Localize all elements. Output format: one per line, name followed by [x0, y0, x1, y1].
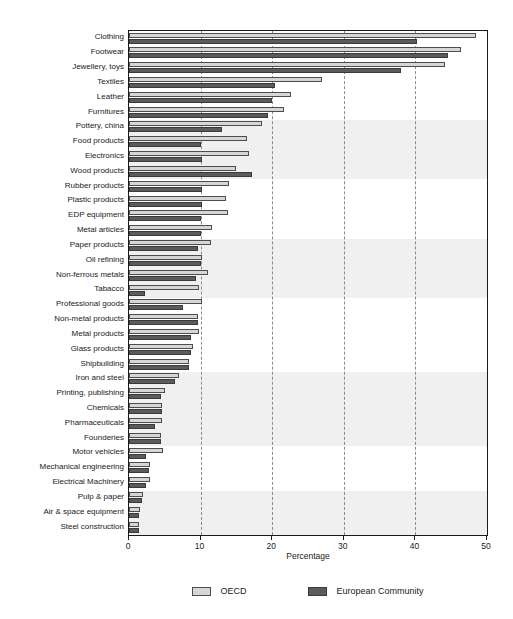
category-label: Motor vehicles [0, 447, 124, 456]
x-axis-tick [343, 536, 344, 540]
x-axis-tick [271, 536, 272, 540]
legend-item-european-community: European Community [308, 586, 423, 596]
bar-european-community [129, 350, 191, 355]
bar-european-community [129, 528, 139, 533]
category-label: Founderies [0, 433, 124, 442]
category-label: Leather [0, 92, 124, 101]
bar-row [129, 33, 487, 48]
bar-oecd [129, 196, 226, 201]
category-label: Oil refining [0, 255, 124, 264]
bar-oecd [129, 166, 236, 171]
bar-oecd [129, 92, 291, 97]
bar-european-community [129, 483, 146, 488]
x-axis-tick [414, 536, 415, 540]
bar-european-community [129, 231, 201, 236]
legend-item-oecd: OECD [192, 586, 246, 596]
bar-row [129, 388, 487, 403]
bar-european-community [129, 394, 161, 399]
category-label: Mechanical engineering [0, 462, 124, 471]
category-label: Shipbuilding [0, 359, 124, 368]
bar-oecd [129, 388, 165, 393]
bar-oecd [129, 507, 140, 512]
category-label: Chemicals [0, 403, 124, 412]
bar-european-community [129, 142, 201, 147]
bar-european-community [129, 335, 191, 340]
x-axis-tick-label: 30 [338, 541, 347, 551]
bar-row [129, 285, 487, 300]
category-label: Furnitures [0, 107, 124, 116]
category-label: Footwear [0, 47, 124, 56]
bar-row [129, 299, 487, 314]
bar-row [129, 121, 487, 136]
bar-row [129, 136, 487, 151]
category-label: Metal products [0, 329, 124, 338]
bar-european-community [129, 409, 162, 414]
bar-european-community [129, 172, 252, 177]
bar-oecd [129, 462, 150, 467]
bar-oecd [129, 181, 229, 186]
bar-oecd [129, 373, 179, 378]
category-label: EDP equipment [0, 210, 124, 219]
chart-legend: OECD European Community [128, 580, 488, 602]
bar-european-community [129, 83, 275, 88]
bar-row [129, 270, 487, 285]
bar-european-community [129, 157, 202, 162]
x-axis-tick [486, 536, 487, 540]
bar-oecd [129, 285, 199, 290]
category-label: Printing, publishing [0, 388, 124, 397]
bar-european-community [129, 216, 201, 221]
bar-oecd [129, 77, 322, 82]
bar-european-community [129, 498, 142, 503]
plot-area [128, 30, 488, 536]
bar-oecd [129, 448, 163, 453]
bar-oecd [129, 418, 162, 423]
bar-chart: ClothingFootwearJewellery, toysTextilesL… [0, 0, 513, 619]
bar-oecd [129, 492, 143, 497]
bar-european-community [129, 53, 448, 58]
bar-row [129, 448, 487, 463]
bar-oecd [129, 151, 249, 156]
bar-row [129, 492, 487, 507]
bar-oecd [129, 403, 162, 408]
bar-row [129, 77, 487, 92]
bar-european-community [129, 261, 201, 266]
bar-european-community [129, 246, 198, 251]
category-label: Iron and steel [0, 373, 124, 382]
bar-european-community [129, 276, 196, 281]
bar-row [129, 344, 487, 359]
bar-european-community [129, 98, 272, 103]
bar-european-community [129, 39, 417, 44]
bar-oecd [129, 255, 202, 260]
category-label: Textiles [0, 77, 124, 86]
bar-row [129, 522, 487, 536]
bar-oecd [129, 433, 161, 438]
bar-row [129, 418, 487, 433]
category-label: Electrical Machinery [0, 477, 124, 486]
bar-european-community [129, 379, 175, 384]
category-axis-labels: ClothingFootwearJewellery, toysTextilesL… [0, 30, 124, 536]
bar-oecd [129, 477, 150, 482]
bar-oecd [129, 299, 202, 304]
bar-oecd [129, 136, 247, 141]
bar-european-community [129, 127, 222, 132]
category-label: Tabacco [0, 284, 124, 293]
bar-row [129, 196, 487, 211]
bar-european-community [129, 202, 202, 207]
bar-european-community [129, 439, 161, 444]
bar-row [129, 107, 487, 122]
x-axis-tick-label: 0 [126, 541, 131, 551]
bar-row [129, 433, 487, 448]
bar-row [129, 181, 487, 196]
bar-oecd [129, 522, 139, 527]
bar-row [129, 403, 487, 418]
bar-row [129, 329, 487, 344]
category-label: Professional goods [0, 299, 124, 308]
x-axis-tick [128, 536, 129, 540]
bar-row [129, 255, 487, 270]
legend-swatch-european-community [308, 587, 327, 596]
category-label: Wood products [0, 166, 124, 175]
bar-oecd [129, 314, 198, 319]
bar-oecd [129, 107, 284, 112]
category-label: Jewellery, toys [0, 62, 124, 71]
category-label: Electronics [0, 151, 124, 160]
